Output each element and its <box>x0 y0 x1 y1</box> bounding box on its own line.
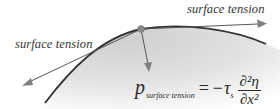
formula-minus: − <box>213 78 223 98</box>
formula-fraction: ∂²η∂x² <box>238 74 261 107</box>
label-surface-tension-left: surface tension <box>15 37 93 52</box>
surface-tension-diagram: surface tension surface tension psurface… <box>0 0 280 109</box>
formula-tau-subscript: s <box>230 91 233 100</box>
formula-pressure-subscript: surface tension <box>146 91 195 100</box>
formula-equals: = <box>199 78 209 98</box>
surface-point <box>138 26 145 33</box>
label-surface-tension-right: surface tension <box>187 2 265 17</box>
surface-tension-formula: psurface tension=−τs∂²η∂x² <box>135 74 261 107</box>
formula-denominator: ∂x² <box>238 91 261 107</box>
formula-numerator: ∂²η <box>238 74 261 91</box>
formula-pressure-symbol: p <box>135 76 145 98</box>
